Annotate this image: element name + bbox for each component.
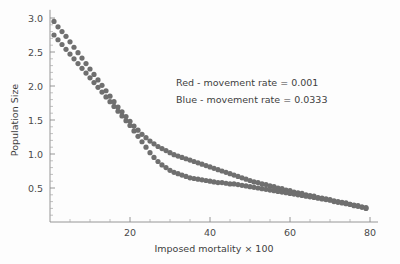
data-point — [67, 51, 72, 56]
data-point — [71, 56, 76, 61]
data-point — [83, 70, 88, 75]
data-point — [103, 94, 108, 99]
data-point — [91, 80, 96, 85]
data-point — [147, 150, 152, 155]
data-point — [63, 47, 68, 52]
data-point — [79, 56, 84, 61]
data-point — [131, 128, 136, 133]
data-point — [155, 159, 160, 164]
data-point — [107, 99, 112, 104]
data-point — [95, 85, 100, 90]
x-tick-label: 60 — [284, 227, 296, 238]
y-tick-label: 1.5 — [28, 115, 43, 126]
data-point — [55, 24, 60, 29]
data-point — [51, 32, 56, 37]
axes-layer — [50, 10, 378, 222]
data-point — [59, 42, 64, 47]
x-tick-label: 80 — [364, 227, 376, 238]
y-tick-label: 2.0 — [28, 81, 43, 92]
data-point — [115, 109, 120, 114]
y-tick-label: 3.0 — [28, 13, 43, 24]
y-tick-label: 0.5 — [28, 183, 43, 194]
data-point — [71, 45, 76, 50]
legend-entry: Blue - movement rate = 0.0333 — [176, 94, 327, 105]
y-axis-title: Population Size — [9, 84, 20, 157]
data-point — [127, 123, 132, 128]
x-tick-label: 40 — [204, 227, 216, 238]
data-point — [79, 66, 84, 71]
data-point — [55, 37, 60, 42]
data-point — [135, 134, 140, 139]
series-2-points — [51, 32, 368, 211]
scatter-plot: 204060800.51.01.52.02.53.0Imposed mortal… — [0, 0, 400, 264]
data-point — [51, 19, 56, 24]
data-point — [99, 90, 104, 95]
data-point — [119, 113, 124, 118]
data-point — [143, 145, 148, 150]
chart-figure: 204060800.51.01.52.02.53.0Imposed mortal… — [0, 0, 400, 264]
data-point — [151, 155, 156, 160]
data-point — [83, 61, 88, 66]
data-point — [143, 135, 148, 140]
data-point — [67, 39, 72, 44]
legend: Red - movement rate = 0.001Blue - moveme… — [176, 77, 327, 105]
data-point — [87, 75, 92, 80]
data-point — [139, 139, 144, 144]
data-point — [87, 66, 92, 71]
data-point — [123, 118, 128, 123]
x-tick-label: 20 — [124, 227, 136, 238]
x-axis-title: Imposed mortality × 100 — [154, 243, 273, 254]
data-points-layer — [51, 19, 368, 211]
y-tick-label: 2.5 — [28, 47, 43, 58]
legend-entry: Red - movement rate = 0.001 — [176, 77, 318, 88]
data-point — [59, 29, 64, 34]
data-point — [63, 34, 68, 39]
data-point — [111, 104, 116, 109]
data-point — [75, 61, 80, 66]
y-tick-label: 1.0 — [28, 149, 43, 160]
data-point — [363, 206, 368, 211]
data-point — [91, 72, 96, 77]
data-point — [75, 50, 80, 55]
